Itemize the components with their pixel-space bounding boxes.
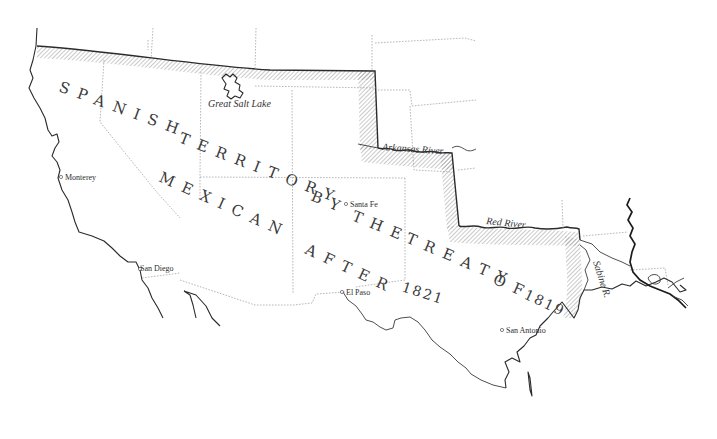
city-marker-san-antonio: [500, 328, 503, 331]
label-el-paso: El Paso: [346, 288, 370, 297]
label-san-diego: San Diego: [140, 264, 174, 273]
title-word-spanish: SPANISH: [57, 78, 190, 141]
mississippi-delta: [648, 275, 688, 306]
treaty-title: SPANISH TERRITORY BY THE TREATY OF 1819 …: [57, 78, 568, 319]
mississippi-river: [627, 198, 686, 308]
label-great-salt-lake: Great Salt Lake: [208, 98, 272, 109]
historical-map: Monterey San Diego Santa Fe El Paso San …: [0, 0, 717, 439]
texas-barrier-island: [528, 372, 532, 396]
rio-grande: [343, 292, 506, 388]
arkansas-river-east: [452, 146, 476, 151]
gulf-of-california-coast: [184, 291, 220, 326]
label-sabine-river: Sabine R.: [591, 259, 613, 299]
city-marker-monterey: [59, 175, 62, 178]
label-santa-fe: Santa Fe: [350, 200, 378, 209]
label-san-antonio: San Antonio: [506, 326, 546, 335]
title-year-1819: 1819: [522, 286, 568, 319]
city-marker-el-paso: [340, 290, 343, 293]
title-word-the: THE: [350, 207, 413, 247]
title-year-1821: 1821: [400, 279, 446, 308]
label-monterey: Monterey: [65, 173, 96, 182]
